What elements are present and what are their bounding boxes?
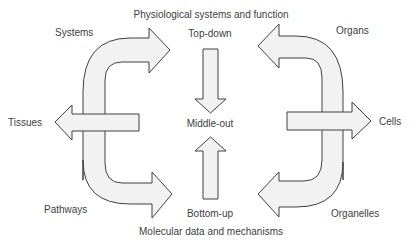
label-organelles: Organelles bbox=[331, 208, 379, 220]
title-physiological-systems: Physiological systems and function bbox=[133, 9, 288, 21]
label-middle-out: Middle-out bbox=[187, 118, 234, 130]
label-top-down: Top-down bbox=[188, 28, 231, 40]
label-cells: Cells bbox=[379, 116, 401, 128]
label-tissues: Tissues bbox=[8, 117, 42, 129]
top-down-arrow bbox=[195, 49, 226, 113]
label-bottom-up: Bottom-up bbox=[187, 208, 233, 220]
title-molecular-data: Molecular data and mechanisms bbox=[139, 226, 283, 238]
label-systems: Systems bbox=[55, 27, 93, 39]
bottom-up-arrow bbox=[195, 137, 226, 199]
label-organs: Organs bbox=[336, 25, 369, 37]
label-pathways: Pathways bbox=[44, 204, 87, 216]
